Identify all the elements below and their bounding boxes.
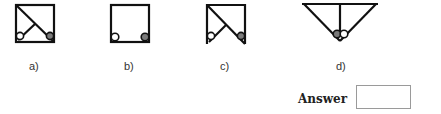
figure-a bbox=[16, 5, 54, 42]
answer-label: Answer bbox=[298, 92, 347, 106]
figure-d bbox=[302, 4, 378, 41]
figure-b bbox=[111, 5, 149, 42]
figure-b-label: b) bbox=[124, 60, 134, 72]
figure-c bbox=[207, 5, 245, 44]
figure-d-label: d) bbox=[336, 60, 346, 72]
figure-a-label: a) bbox=[29, 60, 39, 72]
figure-c-label: c) bbox=[220, 60, 229, 72]
answer-input-box[interactable] bbox=[356, 85, 411, 109]
